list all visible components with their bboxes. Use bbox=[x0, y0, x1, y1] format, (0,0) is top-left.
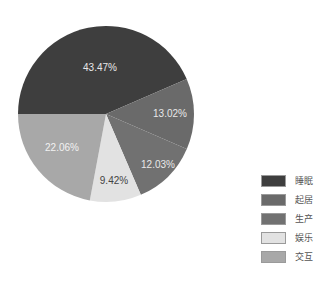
legend-label: 起居 bbox=[295, 193, 313, 206]
slice-label-entertainment: 9.42% bbox=[100, 175, 128, 186]
legend-label: 睡眠 bbox=[295, 174, 313, 187]
legend-item-entertainment[interactable]: 娱乐 bbox=[261, 231, 328, 244]
legend-swatch-living bbox=[261, 194, 286, 206]
legend-label: 娱乐 bbox=[295, 231, 313, 244]
slice-label-production: 12.03% bbox=[141, 159, 175, 170]
legend: 睡眠 起居 生产 娱乐 交互 bbox=[261, 174, 328, 269]
slice-label-living: 13.02% bbox=[153, 108, 187, 119]
legend-label: 交互 bbox=[295, 250, 313, 263]
legend-item-interaction[interactable]: 交互 bbox=[261, 250, 328, 263]
legend-item-living[interactable]: 起居 bbox=[261, 193, 328, 206]
legend-label: 生产 bbox=[295, 212, 313, 225]
slice-label-sleep: 43.47% bbox=[83, 62, 117, 73]
legend-item-production[interactable]: 生产 bbox=[261, 212, 328, 225]
slice-label-interaction: 22.06% bbox=[45, 142, 79, 153]
legend-swatch-entertainment bbox=[261, 232, 286, 244]
legend-swatch-sleep bbox=[261, 175, 286, 187]
legend-swatch-interaction bbox=[261, 251, 286, 263]
legend-item-sleep[interactable]: 睡眠 bbox=[261, 174, 328, 187]
legend-swatch-production bbox=[261, 213, 286, 225]
